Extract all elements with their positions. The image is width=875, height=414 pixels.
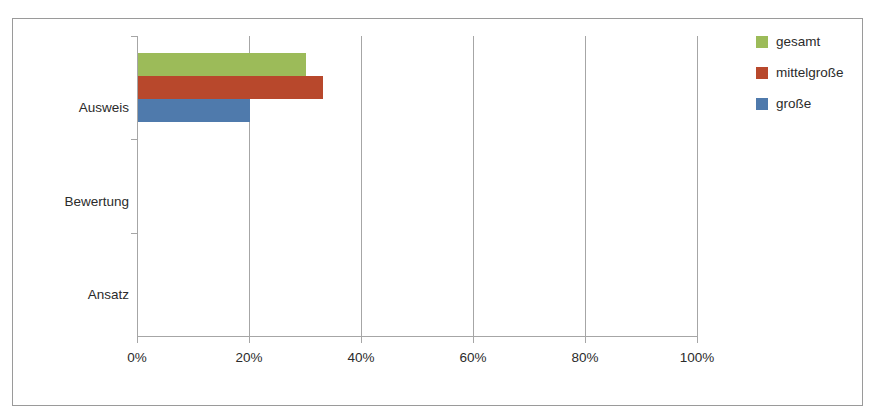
gridline-60 — [473, 36, 474, 337]
legend-item-gesamt[interactable]: gesamt — [756, 26, 844, 57]
x-tick-60 — [473, 337, 474, 343]
x-axis-label-80: 80% — [555, 351, 615, 365]
legend-label-gesamt: gesamt — [776, 35, 820, 49]
gridline-40 — [361, 36, 362, 337]
x-tick-100 — [697, 337, 698, 343]
x-tick-80 — [585, 337, 586, 343]
bar-ausweis-gesamt[interactable] — [138, 53, 306, 76]
legend-swatch-mittelgrosse — [756, 67, 768, 79]
x-axis-label-40: 40% — [331, 351, 391, 365]
bar-ausweis-grosse[interactable] — [138, 99, 250, 122]
x-axis-line — [137, 336, 698, 337]
gridline-100 — [697, 36, 698, 337]
y-axis-label-bewertung: Bewertung — [27, 195, 129, 209]
legend-label-grosse: große — [776, 97, 811, 111]
y-tick-boundary-top — [131, 36, 137, 37]
y-tick-boundary-2 — [131, 233, 137, 234]
gridline-80 — [585, 36, 586, 337]
legend-swatch-grosse — [756, 98, 768, 110]
x-axis-label-20: 20% — [219, 351, 279, 365]
legend-label-mittelgrosse: mittelgroße — [776, 66, 844, 80]
legend-item-mittelgrosse[interactable]: mittelgroße — [756, 57, 844, 88]
legend-item-grosse[interactable]: große — [756, 88, 844, 119]
x-tick-20 — [249, 337, 250, 343]
x-tick-40 — [361, 337, 362, 343]
legend: gesamt mittelgroße große — [756, 26, 844, 119]
x-tick-0 — [137, 337, 138, 343]
x-axis-label-100: 100% — [667, 351, 727, 365]
y-axis-label-ansatz: Ansatz — [27, 288, 129, 302]
x-axis-label-0: 0% — [107, 351, 167, 365]
y-axis-label-ausweis: Ausweis — [27, 101, 129, 115]
legend-swatch-gesamt — [756, 36, 768, 48]
chart-container: Ausweis Bewertung Ansatz 0% 20% 40% 60% … — [12, 18, 863, 406]
x-axis-label-60: 60% — [443, 351, 503, 365]
plot-area — [137, 36, 698, 337]
y-tick-boundary-1 — [131, 139, 137, 140]
bar-ausweis-mittelgrosse[interactable] — [138, 76, 323, 99]
